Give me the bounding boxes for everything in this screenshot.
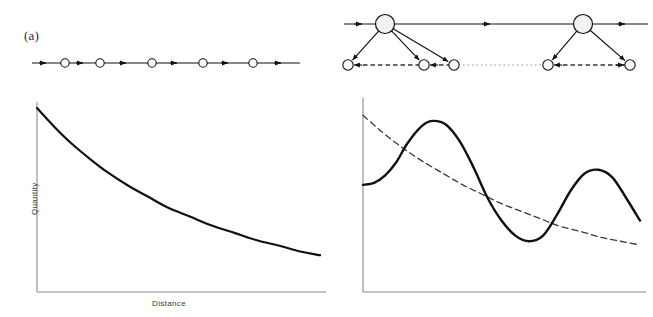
series-quantity-with-hubs [363, 121, 640, 241]
panel-a: (a) Quantity Distance [0, 0, 330, 317]
figure-root: (a) Quantity Distance (b) [0, 0, 653, 317]
panel-a-chain-diagram [32, 59, 300, 67]
spoke-4 [552, 31, 576, 60]
chain-node-1 [61, 59, 69, 67]
panel-b-hub-diagram [343, 15, 648, 71]
lower-node-5 [625, 60, 635, 70]
spoke-2 [392, 31, 420, 60]
chain-node-4 [199, 59, 207, 67]
panel-b-chart [363, 98, 646, 292]
series-quantity-decay [37, 108, 320, 255]
hub-node-1 [376, 15, 395, 34]
lower-node-3 [449, 60, 459, 70]
chain-node-2 [96, 59, 104, 67]
panel-a-x-axis-title: Distance [152, 299, 186, 308]
lower-node-1 [343, 60, 353, 70]
panel-a-y-axis-title: Quantity [30, 182, 39, 215]
spoke-1 [352, 31, 378, 60]
chain-node-3 [148, 59, 156, 67]
series-reference-decay [363, 115, 640, 245]
spoke-3 [393, 29, 448, 62]
panel-b: (b) Quantity Distance [330, 0, 653, 317]
lower-node-2 [419, 60, 429, 70]
hub-node-2 [574, 15, 593, 34]
chain-node-5 [249, 59, 257, 67]
panel-b-graphics [330, 0, 653, 317]
spoke-5 [590, 30, 625, 60]
panel-a-chart [37, 102, 326, 292]
panel-a-graphics [0, 0, 330, 317]
lower-node-4 [543, 60, 553, 70]
